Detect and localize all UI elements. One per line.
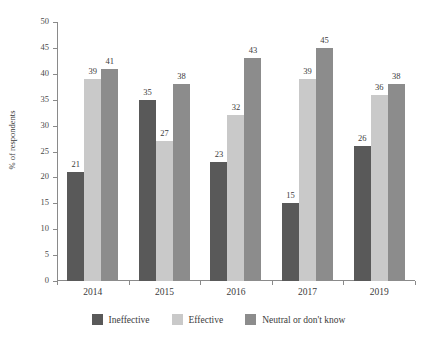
x-axis-label-2016: 2016 — [200, 287, 272, 297]
legend-item-neutral-or-don-t-know[interactable]: Neutral or don't know — [245, 314, 345, 325]
bar[interactable]: 39 — [84, 79, 101, 281]
bar-group-2017: 153945 — [272, 22, 344, 281]
x-axis-tick-mark — [415, 281, 416, 285]
bar-value-label: 39 — [89, 66, 98, 76]
x-axis-tick-mark — [57, 281, 58, 285]
x-axis-tick-mark — [272, 281, 273, 285]
bar[interactable]: 38 — [388, 84, 405, 281]
legend-item-ineffective[interactable]: Ineffective — [92, 314, 150, 325]
legend-label: Ineffective — [109, 315, 150, 325]
x-axis-label-2019: 2019 — [343, 287, 415, 297]
x-axis-labels: 20142015201620172019 — [57, 287, 415, 297]
bar[interactable]: 45 — [316, 48, 333, 281]
bar[interactable]: 26 — [354, 146, 371, 281]
bar-value-label: 38 — [392, 71, 401, 81]
bar-value-label: 21 — [72, 159, 81, 169]
legend-label: Effective — [189, 315, 224, 325]
y-axis-title: % of respondents — [2, 0, 20, 280]
bar-value-label: 23 — [215, 149, 224, 159]
bar-chart: % of respondents 50454035302520151050 21… — [0, 0, 437, 347]
bar-value-label: 26 — [358, 133, 367, 143]
bar-value-label: 27 — [160, 128, 169, 138]
bar[interactable]: 36 — [371, 95, 388, 281]
bar[interactable]: 15 — [282, 203, 299, 281]
x-axis-label-2017: 2017 — [272, 287, 344, 297]
legend-swatch-icon — [92, 314, 103, 325]
legend-label: Neutral or don't know — [262, 315, 345, 325]
legend-swatch-icon — [245, 314, 256, 325]
bar-value-label: 39 — [303, 66, 312, 76]
bar-value-label: 45 — [320, 35, 329, 45]
bar-value-label: 32 — [232, 102, 241, 112]
bar[interactable]: 39 — [299, 79, 316, 281]
bar-value-label: 15 — [286, 190, 295, 200]
plot-area: 50454035302520151050 2139413527382332431… — [57, 22, 415, 281]
x-axis-tick-mark — [200, 281, 201, 285]
bar-value-label: 35 — [143, 87, 152, 97]
bar[interactable]: 43 — [244, 58, 261, 281]
legend-item-effective[interactable]: Effective — [172, 314, 224, 325]
bar[interactable]: 41 — [101, 69, 118, 281]
bar[interactable]: 32 — [227, 115, 244, 281]
y-axis-tick-label: 30 — [41, 120, 50, 130]
bar[interactable]: 27 — [156, 141, 173, 281]
x-axis-tick-mark — [343, 281, 344, 285]
bar[interactable]: 23 — [210, 162, 227, 281]
y-axis-tick-label: 20 — [41, 171, 50, 181]
y-axis-tick-label: 25 — [41, 146, 50, 156]
bar-group-2019: 263638 — [343, 22, 415, 281]
y-axis-tick-label: 40 — [41, 68, 50, 78]
bar[interactable]: 35 — [139, 100, 156, 281]
x-axis-label-2014: 2014 — [57, 287, 129, 297]
bar-value-label: 43 — [249, 45, 258, 55]
y-axis-tick-label: 45 — [41, 42, 50, 52]
x-axis-label-2015: 2015 — [129, 287, 201, 297]
y-axis-tick-label: 0 — [45, 275, 49, 285]
x-axis-tick-mark — [129, 281, 130, 285]
y-axis-tick-label: 50 — [41, 16, 50, 26]
chart-legend: IneffectiveEffectiveNeutral or don't kno… — [0, 314, 437, 325]
bar[interactable]: 38 — [173, 84, 190, 281]
y-axis-tick-label: 10 — [41, 223, 50, 233]
bar-group-2015: 352738 — [129, 22, 201, 281]
y-axis-tick-label: 5 — [45, 249, 49, 259]
bar-value-label: 38 — [177, 71, 186, 81]
bar-value-label: 36 — [375, 82, 384, 92]
y-axis-tick-label: 15 — [41, 197, 50, 207]
legend-swatch-icon — [172, 314, 183, 325]
bar[interactable]: 21 — [67, 172, 84, 281]
bar-groups: 213941352738233243153945263638 — [57, 22, 415, 281]
bar-group-2014: 213941 — [57, 22, 129, 281]
y-axis-tick-label: 35 — [41, 94, 50, 104]
bar-group-2016: 233243 — [200, 22, 272, 281]
bar-value-label: 41 — [106, 56, 115, 66]
y-axis-title-label: % of respondents — [6, 110, 16, 169]
